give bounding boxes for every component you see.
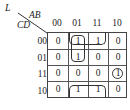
- row-header: 11: [25, 66, 47, 82]
- row-header: 00: [25, 33, 47, 49]
- kmap-cell: 0: [108, 49, 128, 66]
- kmap-cell: 0: [48, 81, 68, 98]
- kmap-cell: 0: [108, 81, 128, 98]
- kmap-grid: 0 1 1 0 0 1 0 0 0 0 0 1 0 1 1 0: [47, 32, 127, 98]
- kmap-cell: 0: [88, 65, 108, 82]
- group-loop-bottom-wrap: [69, 85, 106, 98]
- kmap-cell: 0: [88, 49, 108, 66]
- kmap-cell: 0: [68, 65, 88, 82]
- col-header: 00: [47, 18, 67, 28]
- kmap-cell: 0: [48, 49, 68, 66]
- group-circle-single: [112, 68, 123, 79]
- row-header: 01: [25, 50, 47, 66]
- col-header: 01: [67, 18, 87, 28]
- kmap-cell: 0: [48, 65, 68, 82]
- col-header: 10: [107, 18, 127, 28]
- kmap-cell: 0: [48, 33, 68, 50]
- kmap-cell: 0: [108, 33, 128, 50]
- group-loop-top-wrap: [69, 32, 106, 45]
- row-header: 10: [25, 83, 47, 99]
- col-header: 11: [87, 18, 107, 28]
